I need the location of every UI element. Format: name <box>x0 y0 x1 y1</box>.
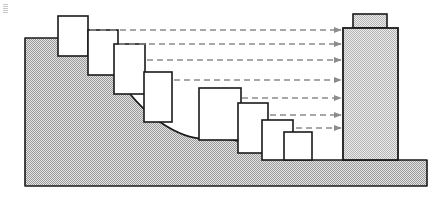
building-8 <box>284 132 312 160</box>
building-4 <box>144 72 172 122</box>
building-3 <box>114 44 145 94</box>
tower-rooftop-cap <box>353 14 387 28</box>
tall-tower <box>343 28 398 160</box>
hillside-sightline-diagram <box>0 0 447 202</box>
diagram-canvas <box>0 0 447 202</box>
building-5 <box>199 88 241 140</box>
building-1 <box>58 16 88 56</box>
tower-group <box>343 14 398 160</box>
